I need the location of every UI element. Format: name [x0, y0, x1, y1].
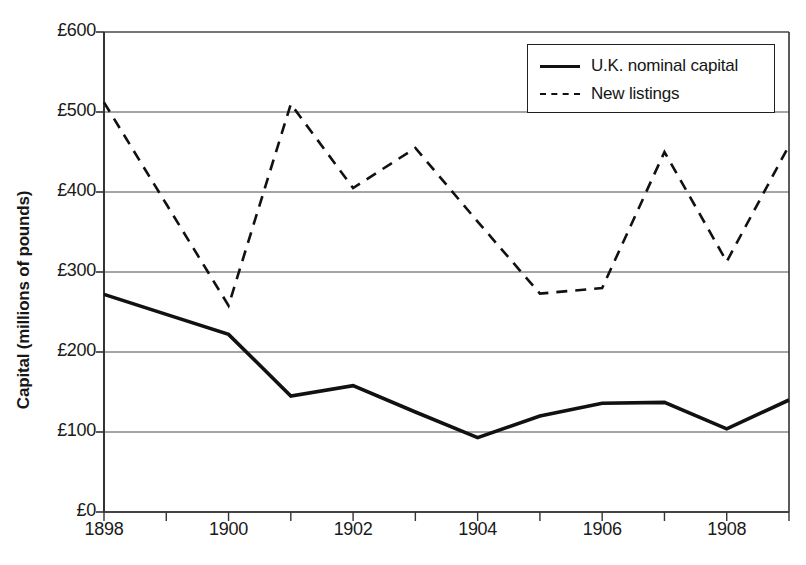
data-series	[104, 102, 789, 437]
legend-line-sample-solid-icon	[538, 60, 582, 72]
legend-label-new-listings: New listings	[591, 84, 679, 104]
legend-entry-uk-nominal-capital: U.K. nominal capital	[538, 53, 738, 79]
legend-label-uk-nominal-capital: U.K. nominal capital	[591, 56, 738, 76]
legend-line-sample-dashed-icon	[538, 88, 582, 100]
series-line-u-k-nominal-capital	[104, 294, 789, 437]
series-line-new-listings	[104, 102, 789, 305]
y-axis-ticks	[96, 32, 104, 512]
legend: U.K. nominal capital New listings	[527, 44, 775, 113]
x-axis-ticks	[104, 512, 789, 521]
legend-entry-new-listings: New listings	[538, 81, 679, 107]
chart-figure: Capital (millions of pounds) £0£100£200£…	[0, 0, 806, 565]
